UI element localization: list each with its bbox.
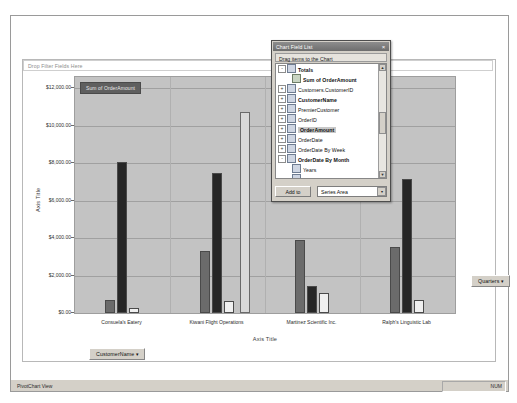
field-icon xyxy=(287,134,296,143)
chevron-down-icon: ▾ xyxy=(377,187,386,196)
field-icon xyxy=(287,94,296,103)
status-view-label: PivotChart View xyxy=(17,383,52,389)
expand-icon[interactable]: + xyxy=(278,135,286,143)
field-list-item[interactable]: -Totals xyxy=(276,64,386,74)
chevron-down-icon: ▾ xyxy=(501,278,504,284)
category-separator xyxy=(265,77,266,313)
field-list-item-label: CustomerName xyxy=(298,97,337,103)
chart-bar[interactable] xyxy=(129,308,139,313)
scroll-up-icon[interactable]: ▲ xyxy=(379,64,386,71)
field-list-subtitle-label: Drag items to the Chart xyxy=(279,56,333,62)
plot-area[interactable] xyxy=(74,76,456,314)
field-icon xyxy=(287,84,296,93)
chart-field-list-dialog[interactable]: Chart Field List × Drag items to the Cha… xyxy=(271,40,391,202)
y-axis-tick-label: $12,000.00 xyxy=(23,84,71,90)
y-axis-tick-label: $6,000.00 xyxy=(23,197,71,203)
x-axis-category-label: Martinez Scientific Inc. xyxy=(264,319,359,325)
field-list-item-label: OrderDate By Week xyxy=(298,147,345,153)
field-list-item[interactable]: Quarters xyxy=(276,174,386,179)
chart-bar[interactable] xyxy=(307,286,317,313)
field-icon xyxy=(292,164,301,173)
field-icon xyxy=(287,114,296,123)
field-list-item-label: Years xyxy=(303,167,316,173)
scrollbar-thumb[interactable] xyxy=(379,112,386,134)
x-axis-category-label: Consuela's Eatery xyxy=(74,319,169,325)
field-icon xyxy=(287,104,296,113)
field-list-tree[interactable]: -TotalsSum of OrderAmount+Customers.Cust… xyxy=(275,63,387,179)
field-list-item[interactable]: -OrderDate By Month xyxy=(276,154,386,164)
field-list-item[interactable]: Years xyxy=(276,164,386,174)
category-separator xyxy=(170,77,171,313)
chart-bar[interactable] xyxy=(414,300,424,313)
chart-bar[interactable] xyxy=(319,293,329,313)
close-icon[interactable]: × xyxy=(380,44,387,51)
field-list-title: Chart Field List xyxy=(276,44,312,50)
field-list-item-label: Customers.CustomerID xyxy=(298,87,353,93)
collapse-icon[interactable]: - xyxy=(278,65,286,73)
totals-icon xyxy=(287,64,296,73)
field-list-item-label: Totals xyxy=(298,67,313,73)
chevron-down-icon: ▾ xyxy=(136,351,139,357)
scroll-down-icon[interactable]: ▼ xyxy=(379,171,386,178)
status-num-indicator: NUM xyxy=(491,383,502,389)
chart-canvas[interactable]: Drop Filter Fields Here Axis Title $0.00… xyxy=(22,59,496,362)
chart-bar[interactable] xyxy=(200,251,210,313)
field-icon xyxy=(287,154,296,163)
field-list-item-label: OrderID xyxy=(298,117,317,123)
chart-bar[interactable] xyxy=(224,301,234,313)
y-axis-tick-label: $8,000.00 xyxy=(23,159,71,165)
y-axis-tick-label: $10,000.00 xyxy=(23,122,71,128)
y-axis-tick-label: $2,000.00 xyxy=(23,272,71,278)
x-axis-category-label: Ralph's Linguistic Lab xyxy=(359,319,454,325)
x-axis-category-label: Kiwani Flight Operations xyxy=(169,319,264,325)
field-list-titlebar[interactable]: Chart Field List × xyxy=(273,42,389,51)
chart-bar[interactable] xyxy=(295,240,305,313)
chart-bar[interactable] xyxy=(240,112,250,313)
chart-bar[interactable] xyxy=(105,300,115,313)
field-list-item[interactable]: +Customers.CustomerID xyxy=(276,84,386,94)
series-field-label: Sum of OrderAmount xyxy=(86,85,135,91)
target-area-select[interactable]: Series Area ▾ xyxy=(317,186,387,197)
y-axis-tick-label: $4,000.00 xyxy=(23,234,71,240)
field-list-subtitle: Drag items to the Chart xyxy=(275,53,387,62)
field-icon xyxy=(287,144,296,153)
expand-icon[interactable]: + xyxy=(278,115,286,123)
field-list-item[interactable]: +CustomerName xyxy=(276,94,386,104)
chart-bar[interactable] xyxy=(212,173,222,313)
expand-icon[interactable]: + xyxy=(278,85,286,93)
field-list-item[interactable]: +OrderAmount xyxy=(276,124,386,134)
field-list-rows: -TotalsSum of OrderAmount+Customers.Cust… xyxy=(276,64,386,179)
series-field-button[interactable]: Sum of OrderAmount xyxy=(80,82,141,94)
chart-bar[interactable] xyxy=(402,179,412,313)
y-axis-tick-label: $0.00 xyxy=(23,309,71,315)
field-list-item[interactable]: +OrderID xyxy=(276,114,386,124)
field-list-item[interactable]: +PremierCustomer xyxy=(276,104,386,114)
field-list-item[interactable]: +OrderDate xyxy=(276,134,386,144)
field-list-scrollbar[interactable]: ▲ ▼ xyxy=(378,64,386,178)
expand-icon[interactable]: + xyxy=(278,125,286,133)
quarters-field-button[interactable]: Quarters ▾ xyxy=(471,275,510,287)
expand-icon[interactable]: + xyxy=(278,145,286,153)
expand-icon[interactable]: + xyxy=(278,105,286,113)
field-list-item-label: Quarters xyxy=(303,177,325,179)
field-icon xyxy=(292,174,301,179)
chart-bar[interactable] xyxy=(117,162,127,313)
add-to-button[interactable]: Add to xyxy=(275,186,311,197)
sum-icon xyxy=(292,74,301,83)
status-bar: PivotChart View NUM xyxy=(11,379,508,391)
collapse-icon[interactable]: - xyxy=(278,155,286,163)
chart-bar[interactable] xyxy=(390,247,400,313)
field-list-item[interactable]: Sum of OrderAmount xyxy=(276,74,386,84)
field-list-item-label: Sum of OrderAmount xyxy=(303,77,357,83)
customername-field-button[interactable]: CustomerName ▾ xyxy=(89,348,145,360)
field-list-item-label: OrderDate By Month xyxy=(298,157,349,163)
expand-icon[interactable]: + xyxy=(278,95,286,103)
target-area-value: Series Area xyxy=(321,189,348,195)
field-list-footer: Add to Series Area ▾ xyxy=(275,186,387,198)
pivotchart-window: Drop Filter Fields Here Axis Title $0.00… xyxy=(10,15,509,392)
field-list-item-label: OrderDate xyxy=(298,137,323,143)
filter-drop-zone[interactable]: Drop Filter Fields Here xyxy=(23,60,493,71)
field-list-item-label: PremierCustomer xyxy=(298,107,339,113)
field-icon xyxy=(287,124,296,133)
field-list-item[interactable]: +OrderDate By Week xyxy=(276,144,386,154)
